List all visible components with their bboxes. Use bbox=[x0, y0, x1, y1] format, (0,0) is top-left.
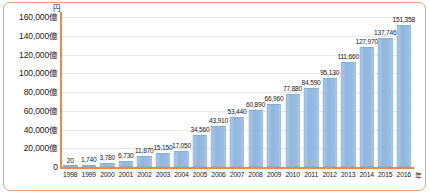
bar-slot: 20 bbox=[61, 17, 80, 167]
bar-value-label: 11,870 bbox=[135, 148, 153, 155]
bar bbox=[193, 135, 207, 167]
x-axis-tick-label: 2014 bbox=[357, 172, 376, 179]
bar bbox=[378, 38, 392, 167]
bar-slot: 127,970 bbox=[357, 17, 376, 167]
x-axis-tick-label: 2000 bbox=[98, 172, 117, 179]
bar bbox=[248, 110, 262, 167]
bar-value-label: 3,780 bbox=[100, 155, 116, 162]
x-axis-tick-labels: 1998199920002001200220032004200520062007… bbox=[61, 172, 413, 186]
bar-slot: 15,150 bbox=[154, 17, 173, 167]
y-axis-tick-label: 40,000億 bbox=[24, 126, 58, 135]
bar bbox=[322, 78, 336, 167]
bar-value-label: 84,590 bbox=[302, 80, 321, 87]
bar-value-label: 60,890 bbox=[246, 102, 265, 109]
bar-value-label: 95,130 bbox=[320, 70, 339, 77]
x-axis-tick-label: 2002 bbox=[135, 172, 154, 179]
bar bbox=[156, 153, 170, 167]
y-axis-tick-label: 60,000億 bbox=[24, 107, 58, 116]
x-axis-tick-label: 2007 bbox=[228, 172, 247, 179]
bar-slot: 77,880 bbox=[283, 17, 302, 167]
y-axis-tick-label: 160,000億 bbox=[19, 13, 58, 22]
x-axis-tick-label: 2004 bbox=[172, 172, 191, 179]
bar-value-label: 137,746 bbox=[374, 30, 396, 37]
bar-slot: 6,730 bbox=[117, 17, 136, 167]
bar-slot: 43,910 bbox=[209, 17, 228, 167]
x-axis-tick-label: 2013 bbox=[339, 172, 358, 179]
x-axis-line bbox=[60, 167, 414, 169]
bar-series: 201,7403,7806,73011,87015,15017,05034,56… bbox=[61, 17, 413, 167]
bar bbox=[211, 126, 225, 167]
bar-value-label: 111,660 bbox=[337, 54, 358, 61]
x-axis-tick-label: 2009 bbox=[265, 172, 284, 179]
bar bbox=[230, 117, 244, 167]
bar-value-label: 34,560 bbox=[190, 127, 209, 134]
bar-slot: 17,050 bbox=[172, 17, 191, 167]
y-axis-tick-label: 80,000億 bbox=[24, 88, 58, 97]
x-axis-tick-label: 2008 bbox=[246, 172, 265, 179]
bar-value-label: 77,880 bbox=[283, 86, 302, 93]
bar-slot: 3,780 bbox=[98, 17, 117, 167]
y-axis-tick-label: 20,000億 bbox=[24, 144, 58, 153]
bar-slot: 1,740 bbox=[80, 17, 99, 167]
bar-slot: 137,746 bbox=[376, 17, 395, 167]
y-axis-tick-labels: 020,000億40,000億60,000億80,000億100,000億120… bbox=[0, 0, 58, 194]
x-axis-tick-label: 2003 bbox=[154, 172, 173, 179]
bar-value-label: 127,970 bbox=[355, 39, 377, 46]
bar-value-label: 1,740 bbox=[81, 157, 97, 164]
chart-screenshot: 円 020,000億40,000億60,000億80,000億100,000億1… bbox=[0, 0, 429, 194]
bar bbox=[397, 25, 411, 167]
bar bbox=[100, 163, 114, 167]
y-axis-tick-label: 100,000億 bbox=[19, 69, 58, 78]
bar-slot: 11,870 bbox=[135, 17, 154, 167]
bar-slot: 60,890 bbox=[246, 17, 265, 167]
bar bbox=[267, 104, 281, 167]
x-axis-tick-label: 2015 bbox=[376, 172, 395, 179]
y-axis-tick-label: 120,000億 bbox=[19, 51, 58, 60]
x-axis-tick-label: 2011 bbox=[302, 172, 321, 179]
bar bbox=[63, 165, 77, 167]
bar bbox=[341, 62, 355, 167]
bar-value-label: 20 bbox=[67, 158, 74, 165]
bar-slot: 84,590 bbox=[302, 17, 321, 167]
y-axis-tick-label: 140,000億 bbox=[19, 32, 58, 41]
bar-value-label: 15,150 bbox=[153, 145, 172, 152]
x-axis-tick-label: 1999 bbox=[80, 172, 99, 179]
bar bbox=[304, 88, 318, 167]
bar bbox=[359, 47, 373, 167]
bar-value-label: 53,440 bbox=[228, 109, 247, 116]
bar-slot: 66,960 bbox=[265, 17, 284, 167]
bar-value-label: 17,050 bbox=[172, 143, 191, 150]
bar-slot: 34,560 bbox=[191, 17, 210, 167]
bar bbox=[119, 161, 133, 167]
bar-value-label: 151,358 bbox=[393, 17, 415, 24]
bar-value-label: 43,910 bbox=[209, 118, 228, 125]
x-axis-tick-label: 2010 bbox=[283, 172, 302, 179]
y-axis-tick-label: 0 bbox=[53, 163, 58, 172]
x-axis-tick-label: 2016 bbox=[394, 172, 413, 179]
bar bbox=[137, 156, 151, 167]
bar bbox=[174, 151, 188, 167]
x-axis-tick-label: 2001 bbox=[117, 172, 136, 179]
x-axis-tick-label: 2006 bbox=[209, 172, 228, 179]
x-axis-tick-label: 2012 bbox=[320, 172, 339, 179]
bar-slot: 53,440 bbox=[228, 17, 247, 167]
x-axis-tick-label: 2005 bbox=[191, 172, 210, 179]
bar-value-label: 66,960 bbox=[265, 96, 284, 103]
bar-slot: 95,130 bbox=[320, 17, 339, 167]
bar bbox=[285, 94, 299, 167]
x-axis-unit-label: 年 bbox=[415, 172, 422, 179]
bar-value-label: 6,730 bbox=[118, 153, 134, 160]
x-axis-tick-label: 1998 bbox=[61, 172, 80, 179]
bar-slot: 151,358 bbox=[394, 17, 413, 167]
bar bbox=[82, 165, 96, 167]
